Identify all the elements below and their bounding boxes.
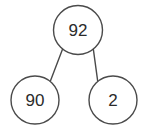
tree-canvas: 92 90 2 <box>0 0 149 130</box>
node-label-root: 92 <box>69 21 88 40</box>
tree-node-root[interactable]: 92 <box>54 6 103 55</box>
tree-node-left-child[interactable]: 90 <box>11 76 59 124</box>
node-label-right-child: 2 <box>108 91 117 110</box>
edge-root-to-right-child <box>93 49 97 81</box>
edge-root-to-left-child <box>50 49 62 81</box>
node-label-left-child: 90 <box>26 91 45 110</box>
tree-node-right-child[interactable]: 2 <box>89 76 137 124</box>
binary-tree-diagram: 92 90 2 <box>0 0 149 130</box>
